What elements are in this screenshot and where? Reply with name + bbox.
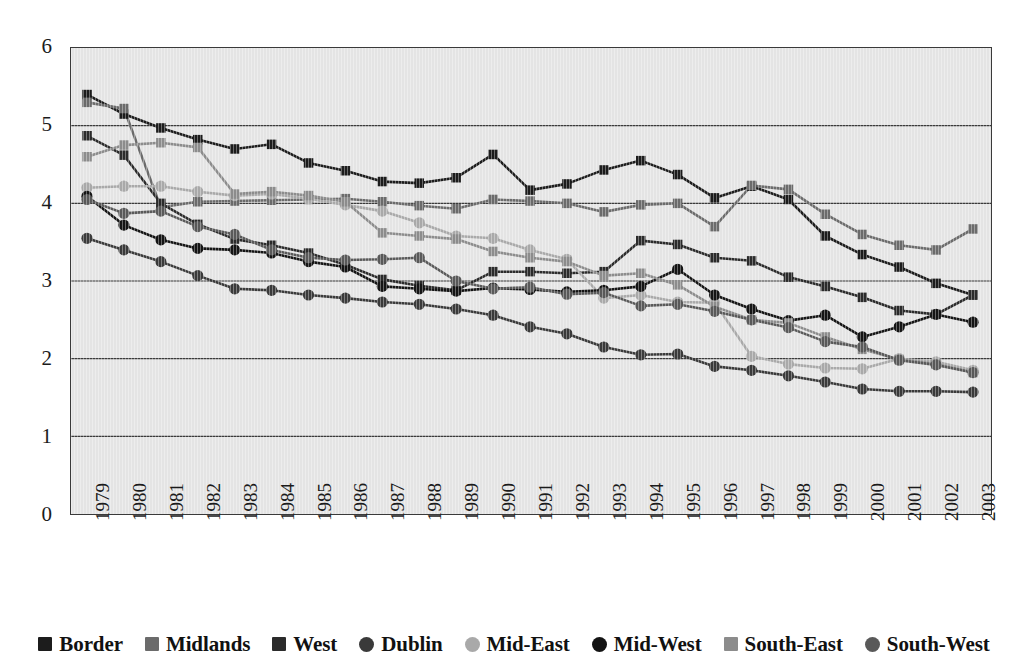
data-point-border: [341, 166, 351, 176]
data-point-mid-west: [118, 220, 129, 231]
data-point-south-east: [451, 234, 461, 244]
data-point-midlands: [82, 98, 92, 108]
data-point-south-west: [746, 314, 757, 325]
data-point-border: [931, 279, 941, 289]
data-point-border: [451, 173, 461, 183]
data-point-mid-west: [894, 321, 905, 332]
data-point-dublin: [820, 376, 831, 387]
x-tick-label: 2002: [924, 519, 946, 609]
circle-marker-icon: [465, 637, 480, 652]
data-point-south-east: [156, 138, 166, 148]
data-point-south-west: [266, 244, 277, 255]
square-marker-icon: [145, 637, 159, 651]
data-point-south-east: [193, 143, 203, 153]
data-point-south-east: [304, 191, 314, 201]
legend-label: Mid-East: [487, 632, 570, 657]
data-point-dublin: [229, 283, 240, 294]
data-point-south-west: [894, 355, 905, 366]
data-point-mid-west: [746, 303, 757, 314]
legend-item-south-west[interactable]: South-West: [865, 632, 990, 657]
data-point-south-west: [377, 254, 388, 265]
legend-label: West: [293, 632, 337, 657]
data-point-south-east: [119, 140, 129, 150]
data-point-dublin: [561, 328, 572, 339]
data-point-midlands: [562, 199, 572, 209]
data-point-dublin: [414, 299, 425, 310]
data-point-mid-east: [118, 181, 129, 192]
data-point-border: [562, 179, 572, 189]
legend-item-mid-west[interactable]: Mid-West: [592, 632, 702, 657]
data-point-mid-west: [451, 286, 462, 297]
data-point-south-west: [192, 221, 203, 232]
data-point-mid-west: [672, 264, 683, 275]
data-point-mid-east: [746, 351, 757, 362]
data-point-south-west: [303, 252, 314, 263]
data-point-midlands: [784, 185, 794, 195]
data-point-mid-east: [857, 363, 868, 374]
data-point-south-east: [525, 253, 535, 263]
data-point-mid-west: [820, 310, 831, 321]
data-point-mid-west: [192, 243, 203, 254]
data-point-south-east: [673, 280, 683, 290]
data-point-dublin: [377, 296, 388, 307]
data-point-south-west: [340, 254, 351, 265]
data-point-mid-west: [229, 244, 240, 255]
data-point-west: [562, 269, 572, 279]
legend-item-west[interactable]: West: [272, 632, 337, 657]
data-point-south-west: [524, 282, 535, 293]
data-point-dublin: [857, 383, 868, 394]
data-point-midlands: [894, 241, 904, 251]
data-point-south-west: [967, 367, 978, 378]
data-point-south-east: [636, 269, 646, 279]
y-tick-label: 2: [12, 348, 52, 369]
data-point-west: [82, 131, 92, 141]
y-tick-label: 3: [12, 270, 52, 291]
y-tick-label: 6: [12, 36, 52, 57]
data-point-midlands: [710, 222, 720, 232]
data-point-south-east: [599, 271, 609, 281]
legend-item-mid-east[interactable]: Mid-East: [465, 632, 570, 657]
legend-item-border[interactable]: Border: [38, 632, 123, 657]
x-tick-label: 2000: [850, 519, 872, 609]
data-point-midlands: [931, 245, 941, 255]
x-tick-label: 1986: [333, 519, 355, 609]
data-point-south-west: [81, 194, 92, 205]
data-point-border: [525, 185, 535, 195]
data-point-midlands: [968, 224, 978, 234]
data-point-south-west: [783, 322, 794, 333]
data-point-border: [488, 150, 498, 160]
data-point-dublin: [155, 256, 166, 267]
data-point-south-west: [229, 229, 240, 240]
series-markers: [81, 90, 978, 398]
data-point-south-west: [672, 299, 683, 310]
x-tick-label: 1995: [666, 519, 688, 609]
data-point-midlands: [747, 181, 757, 191]
data-point-dublin: [303, 289, 314, 300]
data-point-south-east: [267, 187, 277, 197]
y-tick-label: 5: [12, 114, 52, 135]
data-point-south-west: [931, 359, 942, 370]
data-point-south-west: [488, 283, 499, 294]
data-point-mid-east: [783, 359, 794, 370]
data-point-midlands: [673, 199, 683, 209]
data-point-mid-east: [414, 217, 425, 228]
data-point-dublin: [672, 348, 683, 359]
data-point-midlands: [525, 196, 535, 206]
legend-item-south-east[interactable]: South-East: [724, 632, 843, 657]
data-point-mid-west: [155, 234, 166, 245]
x-tick-label: 1997: [740, 519, 762, 609]
legend-item-dublin[interactable]: Dublin: [359, 632, 442, 657]
x-tick-label: 1982: [186, 519, 208, 609]
data-point-west: [488, 267, 498, 277]
data-point-dublin: [931, 386, 942, 397]
square-marker-icon: [38, 637, 52, 651]
x-tick-label: 1989: [444, 519, 466, 609]
legend-item-midlands[interactable]: Midlands: [145, 632, 250, 657]
x-tick-label: 1991: [518, 519, 540, 609]
data-point-mid-east: [820, 362, 831, 373]
data-point-midlands: [119, 104, 129, 114]
x-tick-label: 1980: [112, 519, 134, 609]
data-point-midlands: [599, 207, 609, 217]
circle-marker-icon: [359, 637, 374, 652]
square-marker-icon: [724, 637, 738, 651]
